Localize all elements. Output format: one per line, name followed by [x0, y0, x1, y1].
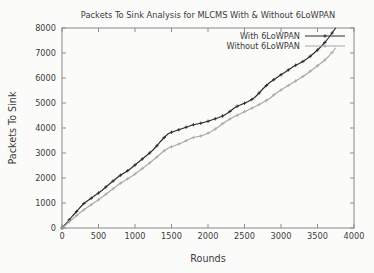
packets-to-sink-line-chart: Packets To Sink Analysis for MLCMS With …: [0, 0, 374, 273]
x-tick-label: 4000: [344, 231, 365, 241]
legend-label: With 6LoWPAN: [240, 31, 300, 41]
x-tick-label: 0: [59, 231, 64, 241]
x-tick-label: 1500: [161, 231, 182, 241]
x-axis-label: Rounds: [190, 253, 225, 264]
x-tick-label: 3000: [271, 231, 292, 241]
y-tick-label: 2000: [35, 173, 56, 183]
y-tick-label: 5000: [35, 98, 56, 108]
x-tick-label: 2500: [234, 231, 255, 241]
x-tick-label: 1000: [125, 231, 146, 241]
x-tick-label: 3500: [307, 231, 328, 241]
y-tick-label: 1000: [35, 198, 56, 208]
y-tick-label: 4000: [35, 123, 56, 133]
y-tick-label: 0: [51, 223, 56, 233]
y-tick-label: 8000: [35, 23, 56, 33]
y-tick-label: 7000: [35, 48, 56, 58]
y-axis-label: Packets To Sink: [7, 91, 18, 164]
y-tick-label: 3000: [35, 148, 56, 158]
chart-screenshot: Packets To Sink Analysis for MLCMS With …: [0, 0, 374, 273]
x-tick-label: 500: [91, 231, 107, 241]
chart-title: Packets To Sink Analysis for MLCMS With …: [81, 10, 335, 20]
y-tick-label: 6000: [35, 73, 56, 83]
legend-label: Without 6LoWPAN: [227, 41, 300, 51]
x-tick-label: 2000: [198, 231, 219, 241]
